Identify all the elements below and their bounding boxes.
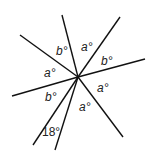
- angle-label-a-top: a°: [81, 41, 92, 53]
- intersecting-lines: [0, 0, 153, 160]
- angle-label-a-left: a°: [44, 67, 55, 79]
- angle-label-a-bottom: a°: [79, 101, 90, 113]
- ray-line: [55, 77, 78, 150]
- angle-diagram: b° a° b° a° a° b° a° 18°: [0, 0, 153, 160]
- angle-label-b-right: b°: [101, 55, 112, 67]
- angle-label-18: 18°: [42, 126, 60, 138]
- angle-label-b-top: b°: [56, 45, 67, 57]
- angle-label-b-bottom: b°: [45, 91, 56, 103]
- angle-label-a-right: a°: [97, 82, 108, 94]
